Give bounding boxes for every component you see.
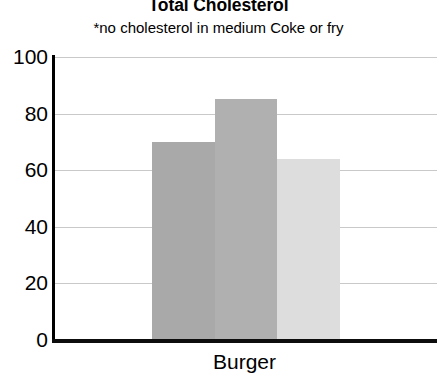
- x-axis-label: Burger: [52, 349, 437, 375]
- y-axis-tick-labels: 020406080100: [0, 0, 48, 383]
- cholesterol-bar-chart: Total Cholesterol *no cholesterol in med…: [0, 0, 437, 383]
- gridline-100: [52, 57, 437, 58]
- y-axis-line: [52, 55, 55, 342]
- y-tick-label-20: 20: [2, 272, 48, 293]
- x-axis-line: [52, 339, 437, 343]
- y-tick-label-60: 60: [2, 159, 48, 180]
- y-tick-label-0: 0: [2, 329, 48, 350]
- bar-2: [215, 99, 278, 340]
- y-tick-label-40: 40: [2, 216, 48, 237]
- chart-subtitle: *no cholesterol in medium Coke or fry: [0, 18, 437, 37]
- y-tick-label-100: 100: [2, 46, 48, 67]
- y-tick-label-80: 80: [2, 103, 48, 124]
- plot-area: [52, 57, 437, 340]
- bar-1: [152, 142, 215, 340]
- bar-3: [277, 159, 340, 340]
- chart-title: Total Cholesterol: [0, 0, 437, 15]
